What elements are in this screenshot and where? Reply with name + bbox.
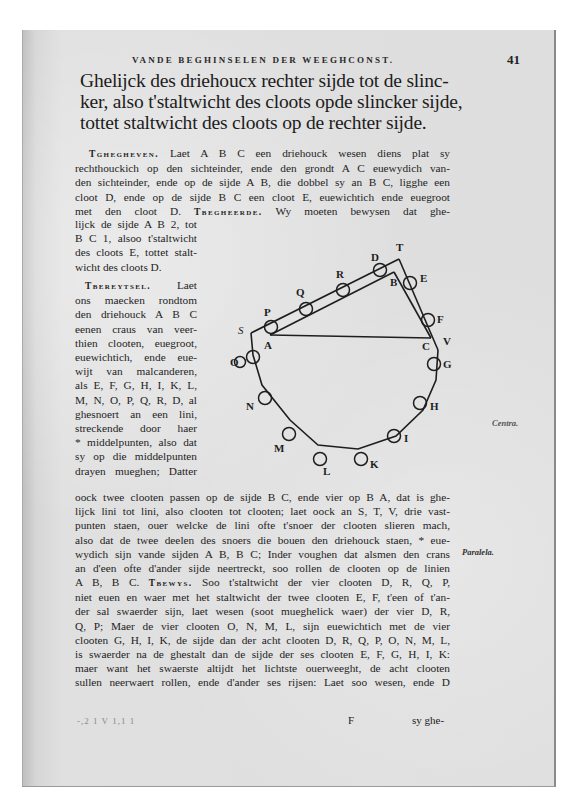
hanging-chain [251, 333, 438, 449]
label-r: R [336, 268, 345, 280]
bead-h [414, 397, 427, 410]
label-l: L [323, 465, 330, 477]
bead-k [355, 453, 368, 466]
label-n: N [246, 400, 254, 412]
label-h: H [430, 400, 439, 412]
label-p: P [264, 306, 271, 318]
bead-g [428, 358, 441, 371]
triangle-side-ab [270, 272, 394, 335]
label-k: K [370, 458, 379, 470]
bead-q [300, 303, 313, 316]
chain-upper-ab [251, 259, 399, 333]
label-t: T [396, 241, 404, 253]
bead-n [259, 392, 272, 405]
label-e: E [420, 272, 427, 284]
label-b: B [390, 276, 398, 288]
label-a: A [264, 339, 272, 351]
label-c: C [422, 340, 430, 352]
label-o: O [230, 356, 239, 368]
bead-m [283, 428, 296, 441]
chain-upper-bc [399, 259, 438, 350]
label-v: V [443, 335, 451, 347]
label-d: D [371, 251, 379, 263]
bead-f [422, 314, 435, 327]
label-f: F [437, 313, 444, 325]
label-q: Q [296, 286, 305, 298]
chain-triangle-diagram: P Q R D T B E F C V G H I K L M N O A S [0, 0, 575, 801]
triangle-base-ac [270, 335, 431, 338]
label-g: G [443, 358, 452, 370]
bead-l [314, 453, 327, 466]
label-i: I [404, 432, 408, 444]
label-s: S [238, 324, 244, 336]
label-m: M [274, 442, 285, 454]
